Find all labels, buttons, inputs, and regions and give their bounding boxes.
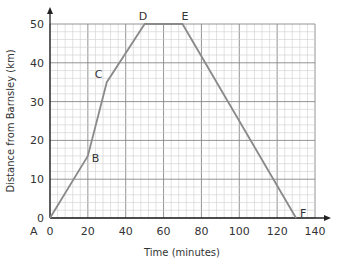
svg-text:100: 100 [229, 225, 250, 238]
svg-text:140: 140 [305, 225, 326, 238]
svg-text:20: 20 [81, 225, 95, 238]
point-label-B: B [92, 152, 100, 165]
distance-time-graph: 02040608010012014001020304050Time (minut… [0, 0, 339, 264]
svg-text:0: 0 [37, 212, 44, 225]
point-label-D: D [139, 10, 147, 23]
svg-text:40: 40 [119, 225, 133, 238]
svg-text:60: 60 [157, 225, 171, 238]
point-label-E: E [182, 10, 189, 23]
svg-text:0: 0 [47, 225, 54, 238]
svg-text:Distance from Barnsley (km): Distance from Barnsley (km) [5, 49, 16, 192]
svg-text:80: 80 [194, 225, 208, 238]
point-label-C: C [95, 68, 103, 81]
point-label-A: A [30, 225, 38, 238]
svg-text:10: 10 [30, 173, 44, 186]
svg-text:Time (minutes): Time (minutes) [143, 247, 220, 258]
svg-text:120: 120 [267, 225, 288, 238]
svg-text:40: 40 [30, 57, 44, 70]
svg-text:50: 50 [30, 18, 44, 31]
svg-text:20: 20 [30, 134, 44, 147]
point-label-F: F [300, 207, 306, 220]
journey-line [50, 24, 296, 218]
svg-text:30: 30 [30, 96, 44, 109]
